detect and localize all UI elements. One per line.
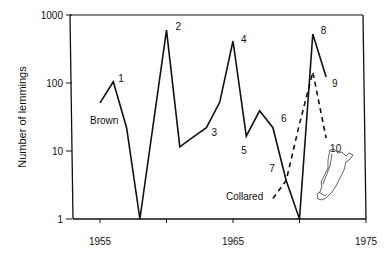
- y-tick-label: 10: [52, 146, 64, 157]
- series-label-brown: Brown: [90, 115, 118, 126]
- y-axis-label: Number of lemmings: [16, 66, 28, 168]
- annotation-2: 2: [176, 21, 182, 32]
- annotation-5: 5: [241, 145, 247, 156]
- annotation-9: 9: [332, 78, 338, 89]
- series-label-collared: Collared: [226, 191, 263, 202]
- y-tick-label: 1: [57, 214, 63, 225]
- x-tick-label: 1965: [222, 236, 245, 247]
- annotation-8: 8: [321, 25, 327, 36]
- lemming-chart: 1101001000 195519651975 Number of lemmin…: [0, 0, 387, 265]
- x-tick-label: 1975: [355, 236, 378, 247]
- y-tick-label: 100: [46, 78, 63, 89]
- annotation-1: 1: [118, 73, 124, 84]
- x-tick-label: 1955: [89, 236, 112, 247]
- y-axis-line: [70, 15, 73, 219]
- annotation-6: 6: [281, 113, 287, 124]
- series-line-brown: [100, 30, 326, 219]
- series-line-collared: [273, 72, 326, 199]
- annotation-7: 7: [269, 163, 275, 174]
- right-border: [363, 15, 366, 219]
- annotation-4: 4: [241, 34, 247, 45]
- island-map-icon: [317, 149, 353, 200]
- y-tick-label: 1000: [41, 10, 64, 21]
- annotation-3: 3: [211, 127, 217, 138]
